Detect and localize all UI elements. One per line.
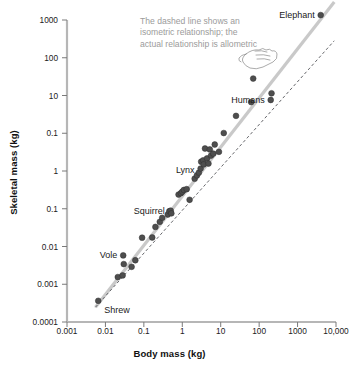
data-point — [216, 149, 222, 155]
data-point — [132, 257, 138, 263]
x-tick-label: 100 — [252, 326, 266, 336]
data-point — [250, 76, 256, 82]
data-point — [184, 186, 190, 192]
data-point — [159, 215, 165, 221]
data-point-label: Elephant — [279, 10, 315, 20]
y-tick-label: 0.1 — [0, 204, 58, 214]
data-point — [129, 264, 135, 270]
data-point — [149, 235, 155, 241]
x-tick-label: 1000 — [288, 326, 306, 336]
data-point — [153, 224, 159, 230]
data-point — [318, 12, 324, 18]
data-point-label: Vole — [100, 250, 118, 260]
data-point — [212, 142, 218, 148]
data-point — [187, 197, 193, 203]
data-point-label: Lynx — [176, 165, 195, 175]
data-point — [139, 235, 145, 241]
data-point-group — [95, 12, 323, 304]
data-point — [120, 273, 126, 279]
y-tick-label: 10 — [0, 91, 58, 101]
data-point-label: Squirrel — [134, 206, 165, 216]
y-tick-label: 1 — [0, 166, 58, 176]
x-tick-label: 10 — [216, 326, 225, 336]
data-point — [269, 90, 275, 96]
x-axis-title: Body mass (kg) — [0, 348, 339, 359]
x-tick-label: 0.1 — [138, 326, 150, 336]
y-tick-label: 100 — [0, 53, 58, 63]
data-point — [120, 252, 126, 258]
data-point — [168, 210, 174, 216]
data-point — [95, 298, 101, 304]
data-point — [121, 261, 127, 267]
y-tick-label: 0.1 — [0, 128, 58, 138]
x-tick-label: 10,000 — [323, 326, 348, 336]
y-tick-label: 0.0001 — [0, 317, 58, 327]
y-tick-label: 0.01 — [0, 242, 58, 252]
data-point — [221, 130, 227, 136]
x-tick-label: 0.001 — [57, 326, 78, 336]
y-tick-label: 0.001 — [0, 279, 58, 289]
chart-annotation: The dashed line shows an isometric relat… — [140, 16, 260, 50]
data-point — [233, 113, 239, 119]
x-tick-label: 0.01 — [97, 326, 113, 336]
data-point-label: Humans — [231, 95, 265, 105]
x-tick-label: 1 — [180, 326, 185, 336]
y-tick-label: 1000 — [0, 15, 58, 25]
data-point — [206, 161, 212, 167]
data-point — [268, 97, 274, 103]
pointing-hand-icon — [239, 49, 277, 69]
data-point-label: Shrew — [104, 305, 130, 315]
data-point — [210, 151, 216, 157]
